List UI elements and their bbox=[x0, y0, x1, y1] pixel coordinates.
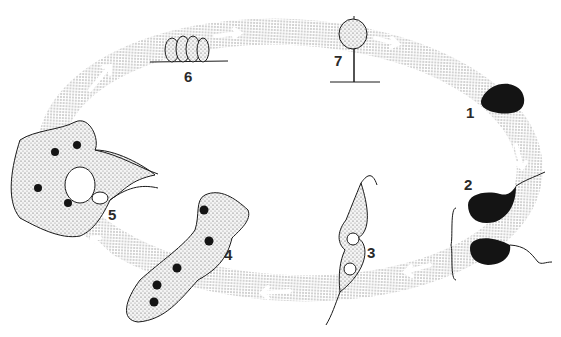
svg-text:2: 2 bbox=[464, 176, 472, 193]
svg-text:1: 1 bbox=[466, 104, 474, 121]
stage-3-fusing-cells: 3 bbox=[326, 176, 377, 325]
life-cycle-diagram: 6 7 1 2 3 4 bbox=[0, 0, 561, 337]
svg-text:4: 4 bbox=[224, 246, 233, 263]
svg-text:3: 3 bbox=[367, 244, 375, 261]
svg-text:7: 7 bbox=[334, 52, 342, 69]
stage-5-reticulate-plasmodium: 5 bbox=[11, 121, 158, 237]
svg-text:5: 5 bbox=[108, 206, 116, 223]
svg-text:6: 6 bbox=[184, 68, 192, 85]
